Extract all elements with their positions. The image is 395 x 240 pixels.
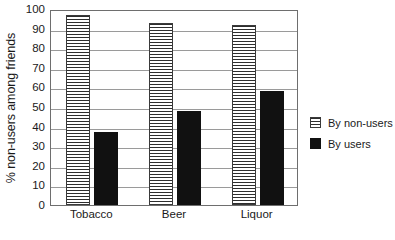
- y-axis-title: % non-users among friends: [4, 32, 18, 182]
- legend-label-by-non-users: By non-users: [328, 117, 393, 129]
- chart-legend: By non-users By users: [310, 112, 395, 154]
- x-category-label: Liquor: [241, 208, 273, 220]
- y-tick-label: 80: [32, 43, 45, 55]
- legend-swatch-hatch-icon: [310, 117, 321, 128]
- y-tick-label: 100: [26, 4, 45, 16]
- bar-liquor-by-non-users: [232, 25, 256, 205]
- bar-beer-by-users: [177, 111, 201, 205]
- plot-area: [50, 10, 298, 206]
- y-tick-label: 10: [32, 181, 45, 193]
- y-tick-label: 20: [32, 161, 45, 173]
- bar-tobacco-by-users: [94, 132, 118, 205]
- y-tick-label: 50: [32, 102, 45, 114]
- bar-liquor-by-users: [260, 91, 284, 205]
- y-tick-label: 60: [32, 83, 45, 95]
- x-category-label: Tobacco: [70, 208, 113, 220]
- x-category-label: Beer: [162, 208, 186, 220]
- y-axis-title-container: % non-users among friends: [0, 0, 22, 215]
- y-tick-label: 0: [39, 200, 45, 212]
- y-axis-tick-labels: 0102030405060708090100: [22, 10, 48, 206]
- legend-swatch-solid-icon: [310, 138, 321, 149]
- y-tick-label: 40: [32, 122, 45, 134]
- bars-container: [51, 11, 297, 205]
- y-tick-label: 70: [32, 63, 45, 75]
- y-tick-label: 90: [32, 24, 45, 36]
- x-axis-category-labels: TobaccoBeerLiquor: [50, 208, 298, 230]
- bar-tobacco-by-non-users: [66, 15, 90, 205]
- legend-label-by-users: By users: [328, 138, 371, 150]
- y-tick-label: 30: [32, 141, 45, 153]
- legend-item-by-non-users: By non-users: [310, 112, 395, 133]
- bar-beer-by-non-users: [149, 23, 173, 205]
- bar-chart-figure: % non-users among friends 01020304050607…: [0, 0, 395, 240]
- legend-item-by-users: By users: [310, 133, 395, 154]
